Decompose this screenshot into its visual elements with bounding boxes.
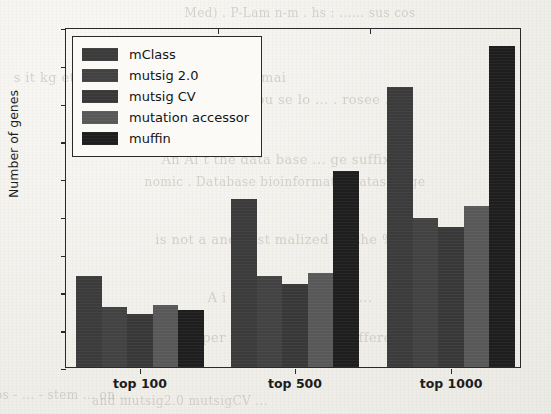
legend-swatch-texture [82, 111, 118, 124]
top-frame-tick [218, 29, 219, 34]
bar-texture [178, 310, 204, 367]
legend-label: mutsig CV [129, 90, 196, 103]
top-frame-tick [370, 29, 371, 34]
bar-texture [464, 206, 490, 367]
legend-label: mutsig 2.0 [129, 69, 198, 82]
bar-texture [413, 218, 439, 367]
bar [413, 218, 439, 367]
bar [127, 314, 153, 367]
legend-swatch-texture [82, 132, 118, 145]
bar [76, 276, 102, 367]
legend-swatch [82, 90, 118, 103]
bar-texture [282, 284, 308, 367]
legend: mClassmutsig 2.0mutsig CVmutation access… [72, 36, 262, 157]
legend-label: mClass [129, 48, 176, 61]
legend-swatch-texture [82, 90, 118, 103]
bar [178, 310, 204, 367]
bar [231, 199, 257, 367]
legend-item: mutsig 2.0 [82, 65, 249, 86]
y-tick-mark [61, 369, 66, 370]
x-tick-label: top 500 [268, 376, 322, 391]
legend-item: mutation accessor [82, 107, 249, 128]
bar-texture [438, 227, 464, 367]
x-tick-mark [451, 369, 452, 374]
y-axis-label: Number of genes [6, 90, 21, 198]
bar [102, 307, 128, 367]
x-tick-label: top 1000 [420, 376, 483, 391]
bar [387, 87, 413, 367]
legend-item: mutsig CV [82, 86, 249, 107]
bar [257, 276, 283, 367]
legend-item: muffin [82, 128, 249, 149]
x-tick-mark [295, 369, 296, 374]
x-tick-label: top 100 [113, 376, 167, 391]
bar [282, 284, 308, 367]
bar-texture [231, 199, 257, 367]
bar [489, 46, 515, 367]
bar-texture [127, 314, 153, 367]
bar-texture [387, 87, 413, 367]
bar [308, 273, 334, 367]
x-tick-mark [140, 369, 141, 374]
legend-swatch [82, 48, 118, 61]
bar [153, 305, 179, 367]
legend-label: mutation accessor [129, 111, 249, 124]
legend-item: mClass [82, 44, 249, 65]
legend-swatch-texture [82, 69, 118, 82]
bar-texture [489, 46, 515, 367]
legend-label: muffin [129, 132, 171, 145]
bar-texture [308, 273, 334, 367]
bar [464, 206, 490, 367]
bar [438, 227, 464, 367]
bar-texture [102, 307, 128, 367]
bar-texture [153, 305, 179, 367]
bar-chart: Number of genes 0102030405060708090 top … [0, 0, 551, 414]
legend-swatch [82, 69, 118, 82]
bar-texture [76, 276, 102, 367]
bar-texture [257, 276, 283, 367]
legend-swatch-texture [82, 48, 118, 61]
legend-swatch [82, 111, 118, 124]
bar [333, 171, 359, 367]
legend-swatch [82, 132, 118, 145]
bar-texture [333, 171, 359, 367]
